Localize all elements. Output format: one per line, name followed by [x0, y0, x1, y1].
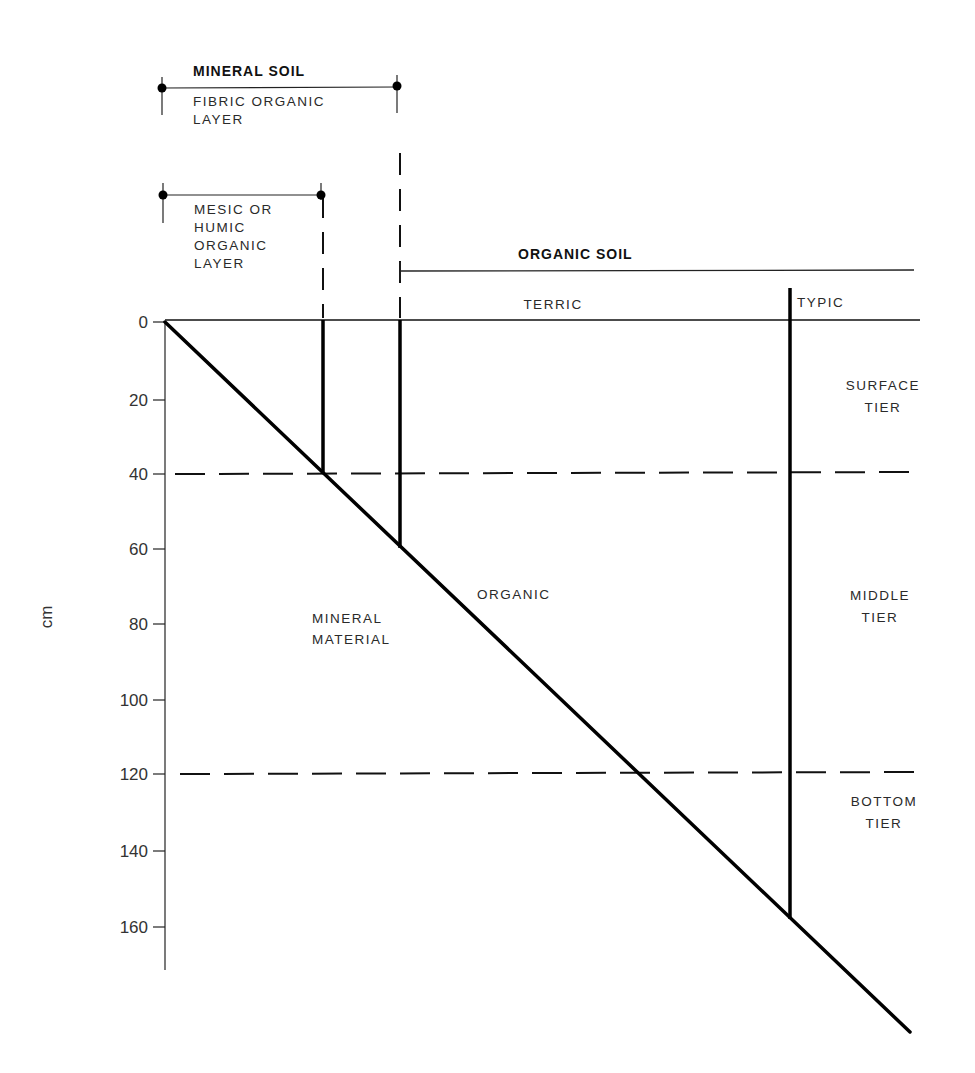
tier-boundary-40cm — [175, 472, 920, 474]
mineral-material-label-line2: MATERIAL — [312, 632, 391, 647]
tick-140: 140 — [120, 842, 148, 861]
mesic-label-line4: LAYER — [194, 256, 245, 271]
organic-soil-bracket — [400, 262, 914, 280]
organic-soil-title: ORGANIC SOIL — [518, 246, 633, 262]
terric-label: TERRIC — [523, 297, 582, 312]
y-axis-tick-labels: 0 20 40 60 80 100 120 140 160 — [120, 313, 148, 937]
tick-0: 0 — [139, 313, 148, 332]
mesic-label-line1: MESIC OR — [194, 202, 273, 217]
fibric-organic-label-line1: FIBRIC ORGANIC — [193, 94, 325, 109]
soil-classification-diagram: 0 20 40 60 80 100 120 140 160 cm MINERAL… — [0, 0, 975, 1073]
surface-tier-label-line2: TIER — [865, 400, 902, 415]
mesic-label-line3: ORGANIC — [194, 238, 268, 253]
tier-boundary-120cm — [180, 772, 920, 774]
tick-60: 60 — [129, 540, 148, 559]
tick-120: 120 — [120, 765, 148, 784]
mineral-organic-contact-line — [165, 322, 910, 1032]
y-axis — [153, 322, 165, 970]
mineral-material-label-line1: MINERAL — [312, 611, 383, 626]
tick-40: 40 — [129, 465, 148, 484]
mineral-soil-title: MINERAL SOIL — [193, 63, 305, 79]
tick-100: 100 — [120, 691, 148, 710]
organic-region-label: ORGANIC — [477, 587, 551, 602]
bottom-tier-label-line2: TIER — [866, 816, 903, 831]
tick-160: 160 — [120, 918, 148, 937]
middle-tier-label-line1: MIDDLE — [850, 588, 910, 603]
surface-tier-label-line1: SURFACE — [846, 378, 920, 393]
mesic-label-line2: HUMIC — [194, 220, 246, 235]
y-axis-label: cm — [37, 606, 56, 629]
typic-label: TYPIC — [797, 295, 844, 310]
bottom-tier-label-line1: BOTTOM — [851, 794, 918, 809]
tick-80: 80 — [129, 615, 148, 634]
fibric-organic-label-line2: LAYER — [193, 112, 244, 127]
middle-tier-label-line2: TIER — [862, 610, 899, 625]
tick-20: 20 — [129, 391, 148, 410]
